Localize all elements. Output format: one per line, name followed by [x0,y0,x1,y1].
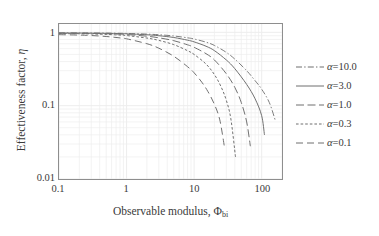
y-axis-title: Effectiveness factor, η [15,49,27,151]
legend-line-swatch-solid [296,81,324,91]
legend-line-swatch-dashdot [296,62,324,72]
x-axis-title: Observable modulus, Φbi [58,205,283,217]
legend-value-0: =10.0 [333,61,357,72]
x-tick-label-0-1: 0.1 [38,183,78,194]
x-tick-label-100: 100 [242,183,282,194]
curve-0.3 [59,34,236,157]
legend-label-4: α=0.1 [327,137,352,148]
curve-3.0 [59,33,264,135]
legend-label-1: α=3.0 [327,80,352,91]
legend-value-3: =0.3 [333,118,352,129]
x-tick-label-1: 1 [106,183,146,194]
y-axis-title-symbol: η [15,49,27,55]
curve-0.1 [59,35,224,147]
legend-value-2: =1.0 [333,99,352,110]
legend-line-swatch-dotted [296,119,324,129]
y-axis-title-wrapper: Effectiveness factor, η [11,20,27,180]
legend-label-3: α=0.3 [327,118,352,129]
legend-item-1[interactable]: α=3.0 [296,76,378,95]
legend-value-1: =3.0 [333,80,352,91]
legend-item-4[interactable]: α=0.1 [296,133,378,152]
legend-item-0[interactable]: α=10.0 [296,57,378,76]
legend-item-2[interactable]: α=1.0 [296,95,378,114]
legend-value-4: =0.1 [333,137,352,148]
legend: α=10.0α=3.0α=1.0α=0.3α=0.1 [296,57,378,152]
legend-item-3[interactable]: α=0.3 [296,114,378,133]
legend-line-swatch-longdash [296,100,324,110]
legend-label-2: α=1.0 [327,99,352,110]
legend-line-swatch-dash [296,138,324,148]
chart-figure: 1 0.1 0.01 0.1 1 10 100 Observable modul… [0,0,379,236]
plot-area [58,23,283,180]
x-axis-title-subscript: bi [222,210,228,219]
legend-label-0: α=10.0 [327,61,357,72]
data-curves [59,24,282,179]
x-tick-label-10: 10 [174,183,214,194]
y-axis-title-main: Effectiveness factor, [15,55,27,152]
x-axis-title-main: Observable modulus, Φ [113,205,222,217]
